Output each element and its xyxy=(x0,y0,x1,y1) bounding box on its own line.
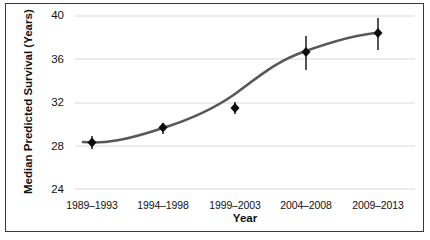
x-axis-title: Year xyxy=(75,212,415,224)
x-axis-tick-labels: 1989–1993 1994–1998 1999–2003 2004–2008 … xyxy=(0,0,430,240)
chart-figure: Median Predicted Survival (Years) 24 28 … xyxy=(0,0,430,240)
x-tick-label: 2009–2013 xyxy=(333,199,423,211)
